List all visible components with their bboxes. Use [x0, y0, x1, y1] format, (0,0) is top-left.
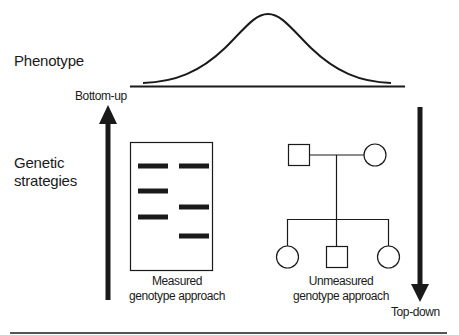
- gel-band: [179, 164, 209, 169]
- arrow-head-down-icon: [411, 284, 429, 302]
- pedigree-chart: [277, 144, 400, 268]
- genetic-strategies-line-2: strategies: [14, 172, 77, 190]
- measured-line-2: genotype approach: [117, 289, 237, 304]
- gel-band: [138, 164, 168, 169]
- measured-line-1: Measured: [117, 274, 237, 289]
- measured-genotype-label: Measured genotype approach: [117, 274, 237, 304]
- unmeasured-line-2: genotype approach: [281, 289, 401, 304]
- pedigree-daughter-1-circle: [277, 246, 299, 268]
- gel-electrophoresis: [131, 143, 213, 271]
- bottom-up-label: Bottom-up: [75, 89, 127, 103]
- pedigree-daughter-2-circle: [378, 246, 400, 268]
- gel-band: [179, 234, 209, 239]
- genetic-strategies-line-1: Genetic: [14, 154, 77, 172]
- top-down-arrow: [411, 107, 429, 302]
- phenotype-label: Phenotype: [14, 52, 84, 69]
- unmeasured-genotype-label: Unmeasured genotype approach: [281, 274, 401, 304]
- gel-lane-right: [179, 164, 209, 239]
- phenotype-distribution: [130, 14, 405, 87]
- gel-band: [138, 189, 168, 194]
- bell-curve: [143, 14, 391, 83]
- pedigree-son-square: [327, 247, 348, 268]
- gel-band: [138, 215, 168, 220]
- top-down-label: Top-down: [391, 305, 440, 319]
- gel-band: [179, 205, 209, 210]
- pedigree-father-square: [289, 145, 310, 166]
- gel-lane-left: [138, 164, 168, 220]
- bottom-up-arrow: [99, 105, 117, 300]
- genetic-strategies-label: Genetic strategies: [14, 154, 77, 190]
- unmeasured-line-1: Unmeasured: [281, 274, 401, 289]
- pedigree-mother-circle: [364, 144, 386, 166]
- arrow-head-up-icon: [99, 105, 117, 124]
